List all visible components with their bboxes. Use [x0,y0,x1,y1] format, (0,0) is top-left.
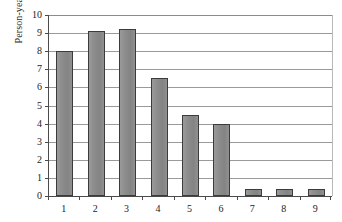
bar-slot [112,15,143,196]
bar-slot [238,15,269,196]
bar[interactable] [276,189,293,196]
y-axis-tick-label: 1 [20,170,42,185]
x-axis-tick-label: 9 [300,203,331,215]
x-axis-tick: 9 [300,196,331,222]
bar[interactable] [88,31,105,196]
plot-right-border [332,15,333,196]
y-axis-tick-label: 7 [20,61,42,76]
x-axis-tick-mark [174,196,175,200]
x-axis-tick-mark [111,196,112,200]
x-axis-tick-mark [142,196,143,200]
x-axis-tick-mark [268,196,269,200]
bar-slot [206,15,237,196]
x-axis-tick: 3 [111,196,142,222]
y-axis-tick-label: 0 [20,188,42,203]
bar-slot [143,15,174,196]
x-axis-tick-mark [48,196,49,200]
bar[interactable] [245,189,262,196]
x-axis-tick-mark [79,196,80,200]
y-axis-tick-label: 9 [20,25,42,40]
x-axis-tick: 8 [268,196,299,222]
x-axis-tick-label: 5 [174,203,205,215]
y-axis-tick-label: 10 [20,7,42,22]
bar-slot [175,15,206,196]
x-axis-tick-label: 6 [205,203,236,215]
x-axis-ticks: 123456789 [48,196,331,222]
bar-slot [80,15,111,196]
plot-area: 012345678910 [48,15,332,197]
x-axis-tick: 1 [48,196,79,222]
x-axis-end-tick [330,196,331,200]
bar-slot [301,15,332,196]
y-axis-tick-label: 2 [20,152,42,167]
x-axis-tick: 4 [142,196,173,222]
bar[interactable] [56,51,73,196]
bar-chart: Person-years 012345678910 123456789 [0,0,342,222]
bar-series [49,15,332,196]
bar[interactable] [151,78,168,196]
x-axis-tick: 7 [237,196,268,222]
y-axis-tick-label: 5 [20,98,42,113]
x-axis-tick-label: 4 [142,203,173,215]
y-axis-tick-label: 4 [20,116,42,131]
bar[interactable] [119,29,136,196]
x-axis-tick-label: 8 [268,203,299,215]
bar-slot [269,15,300,196]
x-axis-tick: 6 [205,196,236,222]
bar[interactable] [308,189,325,196]
x-axis-tick: 2 [79,196,110,222]
x-axis-tick-mark [300,196,301,200]
y-axis-tick-label: 8 [20,43,42,58]
y-axis-tick-label: 3 [20,134,42,149]
y-axis-tick-label: 6 [20,79,42,94]
x-axis-tick: 5 [174,196,205,222]
x-axis-tick-label: 7 [237,203,268,215]
bar[interactable] [213,124,230,196]
x-axis-tick-label: 3 [111,203,142,215]
x-axis-tick-mark [237,196,238,200]
x-axis-tick-label: 1 [48,203,79,215]
x-axis-tick-mark [205,196,206,200]
bar-slot [49,15,80,196]
x-axis-tick-label: 2 [79,203,110,215]
bar[interactable] [182,115,199,196]
